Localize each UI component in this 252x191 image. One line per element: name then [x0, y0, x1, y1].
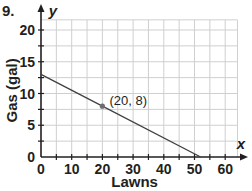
x-axis-variable: x	[236, 135, 246, 152]
x-axis-title: Lawns	[111, 173, 158, 190]
x-tick-label: 0	[37, 161, 45, 177]
y-tick-label: 15	[19, 54, 35, 70]
line-chart: 010203040506005101520LawnsGas (gal)xy(20…	[0, 0, 252, 191]
y-tick-label: 20	[19, 22, 35, 38]
x-tick-label: 40	[156, 161, 172, 177]
y-axis-variable: y	[48, 2, 58, 19]
y-axis-arrow-icon	[38, 4, 45, 12]
y-tick-label: 5	[27, 117, 35, 133]
data-point	[100, 104, 105, 109]
x-tick-label: 50	[187, 161, 203, 177]
y-tick-label: 0	[27, 149, 35, 165]
x-axis-arrow-icon	[240, 154, 248, 161]
y-axis-title: Gas (gal)	[3, 58, 20, 122]
x-tick-label: 60	[217, 161, 233, 177]
data-point-label: (20, 8)	[109, 93, 147, 108]
x-tick-label: 20	[95, 161, 111, 177]
y-tick-label: 10	[19, 86, 35, 102]
data-line	[41, 74, 201, 157]
x-tick-label: 10	[64, 161, 80, 177]
